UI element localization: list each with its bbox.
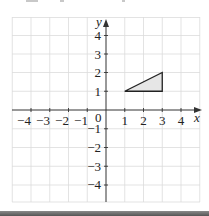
x-tick-label: −1 (74, 113, 88, 128)
y-tick-label: 4 (95, 28, 102, 43)
y-axis-arrow-icon (103, 19, 109, 27)
y-tick-label: −2 (87, 140, 101, 155)
y-tick-label: 2 (95, 65, 102, 80)
x-tick-label: 4 (178, 113, 185, 128)
axes (12, 22, 199, 202)
x-tick-label: 3 (159, 113, 166, 128)
x-axis-label: x (193, 110, 200, 125)
y-tick-label: −3 (87, 159, 101, 174)
x-tick-label: 2 (140, 113, 147, 128)
x-tick-label: −4 (17, 113, 31, 128)
x-tick-label: −2 (55, 113, 69, 128)
bottom-border-bar (0, 211, 209, 216)
y-tick-label: 1 (95, 84, 102, 99)
y-axis-label: y (94, 14, 102, 29)
coordinate-grid: y x 0 −4 −3 −2 −1 1 2 3 4 4 3 2 1 −1 −2 … (0, 0, 209, 216)
y-tick-label: 3 (95, 47, 102, 62)
y-tick-label: −1 (87, 121, 101, 136)
x-tick-label: −3 (36, 113, 50, 128)
x-tick-label: 1 (122, 113, 129, 128)
y-tick-label: −4 (87, 177, 101, 192)
